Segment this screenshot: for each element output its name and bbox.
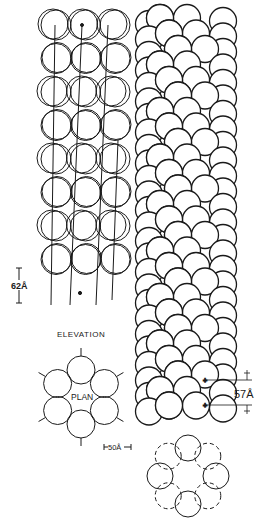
start-dot <box>81 24 84 27</box>
subunit-circle <box>72 43 102 73</box>
helical-model-view: ++ <box>136 5 237 426</box>
subunit-circle <box>42 177 72 207</box>
subunit-circle <box>42 244 72 274</box>
scale-50-label: 50Å <box>108 443 121 452</box>
subunit-circle <box>100 10 130 40</box>
subunit-circle <box>41 10 71 40</box>
plus-mark: + <box>203 402 207 409</box>
outward-arrow <box>39 418 46 422</box>
elevation-label: ELEVATION <box>57 330 105 339</box>
outward-arrow <box>39 373 46 377</box>
end-dot <box>78 291 81 294</box>
helix-line <box>112 140 118 300</box>
scale-62-label: 62Å <box>11 281 28 291</box>
elevation-helix-lines <box>51 24 118 306</box>
subunit-circle <box>42 110 72 140</box>
plan-subunit <box>44 397 72 425</box>
subunit-circle <box>101 110 131 140</box>
helix-subunit <box>210 395 237 422</box>
subunit-circle <box>101 244 131 274</box>
outward-arrow <box>117 418 124 422</box>
subunit-circle <box>101 43 131 73</box>
plan-subunit <box>90 370 118 398</box>
plan-subunit <box>44 370 72 398</box>
plan-label: PLAN <box>71 392 93 402</box>
elevation-view <box>37 9 131 275</box>
subunit-circle <box>72 110 102 140</box>
ring-subunit-solid <box>203 463 229 489</box>
helix-line <box>51 25 55 305</box>
helix-subunit <box>156 392 183 419</box>
subunit-ring-view <box>147 435 229 517</box>
subunit-circle <box>72 177 102 207</box>
scale-57-label: 57Å <box>234 388 254 400</box>
subunit-circle <box>71 10 101 40</box>
outward-arrow <box>117 373 124 377</box>
diagram-figure: 62Å ELEVATION PLAN 50Å ++ 57Å <box>0 0 267 524</box>
subunit-circle <box>97 9 127 39</box>
subunit-circle <box>72 244 102 274</box>
subunit-circle <box>38 9 68 39</box>
plus-mark: + <box>203 377 207 384</box>
subunit-circle <box>42 43 72 73</box>
